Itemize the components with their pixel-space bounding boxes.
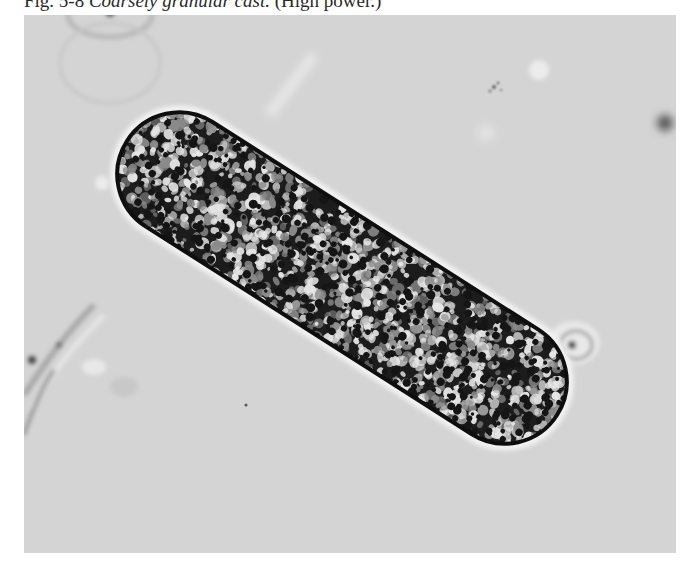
figure-caption: Fig. 5-8 Coarsely granular cast. (High p… [24,0,381,11]
granule [236,221,242,227]
figure-title: Coarsely granular cast. [89,0,270,11]
micrograph-canvas [24,15,676,553]
granule [211,241,221,251]
debris-dot [245,404,248,407]
micrograph-photo [24,15,676,553]
figure-magnification: (High power.) [275,0,382,11]
figure-number: Fig. 5-8 [24,0,84,11]
granule [388,265,393,269]
